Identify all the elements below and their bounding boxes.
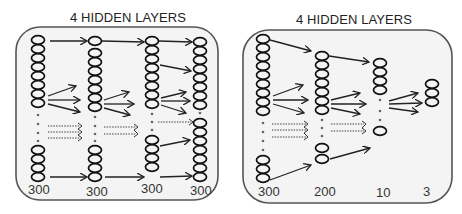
right-layer-1-label: 300 <box>258 184 280 199</box>
network-diagram <box>0 0 462 214</box>
right-panel-frame <box>243 30 452 203</box>
left-layer-2-label: 300 <box>86 184 108 199</box>
left-layer-3-label: 300 <box>141 181 163 196</box>
right-layer-4-label: 3 <box>423 184 430 199</box>
left-layer-4-label: 300 <box>190 183 212 198</box>
left-layer-1-label: 300 <box>28 182 50 197</box>
right-layer-3-label: 10 <box>376 185 390 200</box>
left-panel-frame <box>16 27 218 200</box>
right-layer-2-label: 200 <box>314 184 336 199</box>
